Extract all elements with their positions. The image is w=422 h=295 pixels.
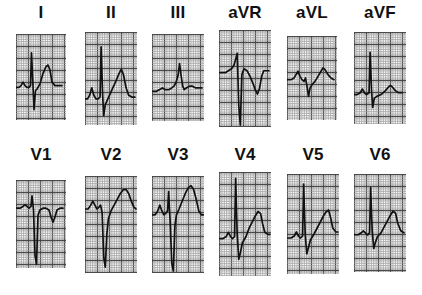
lead-panel-v1: V1 — [16, 146, 66, 268]
lead-graph-avr — [219, 30, 271, 127]
lead-panel-v5: V5 — [287, 146, 339, 274]
lead-label-iii: III — [152, 4, 204, 22]
lead-label-avf: aVF — [354, 4, 406, 22]
lead-graph-i — [16, 34, 66, 120]
lead-label-avl: aVL — [287, 4, 337, 22]
lead-panel-avr: aVR — [219, 4, 271, 127]
ecg-sheet: IIIIIIaVRaVLaVFV1V2V3V4V5V6 — [0, 0, 422, 295]
lead-label-v5: V5 — [287, 146, 339, 164]
lead-label-v3: V3 — [152, 146, 204, 164]
lead-panel-avl: aVL — [287, 4, 337, 120]
lead-panel-i: I — [16, 4, 66, 120]
lead-panel-v2: V2 — [85, 146, 137, 273]
lead-panel-v4: V4 — [219, 146, 271, 276]
lead-graph-v3 — [152, 176, 204, 273]
lead-label-i: I — [16, 4, 66, 22]
lead-panel-v3: V3 — [152, 146, 204, 273]
lead-label-v4: V4 — [219, 146, 271, 164]
lead-panel-avf: aVF — [354, 4, 406, 124]
lead-graph-iii — [152, 34, 204, 121]
lead-graph-v2 — [85, 176, 137, 273]
lead-graph-v6 — [354, 174, 406, 272]
lead-label-ii: II — [85, 4, 137, 22]
lead-label-avr: aVR — [219, 4, 271, 22]
lead-panel-ii: II — [85, 4, 137, 125]
lead-graph-v4 — [219, 172, 271, 276]
lead-label-v6: V6 — [354, 146, 406, 164]
lead-label-v1: V1 — [16, 146, 66, 164]
lead-graph-avf — [354, 32, 406, 124]
lead-label-v2: V2 — [85, 146, 137, 164]
lead-graph-v1 — [16, 180, 66, 268]
lead-panel-v6: V6 — [354, 146, 406, 272]
lead-graph-ii — [85, 32, 137, 125]
lead-graph-v5 — [287, 174, 339, 274]
lead-panel-iii: III — [152, 4, 204, 121]
lead-graph-avl — [287, 36, 337, 120]
